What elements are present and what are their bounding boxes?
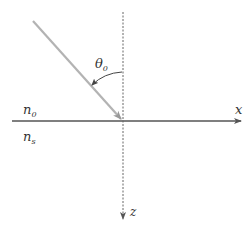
x-axis-label: x [235, 103, 242, 116]
angle-subscript: 0 [103, 64, 108, 73]
angle-label: θ0 [95, 57, 108, 73]
medium-bottom-subscript: s [31, 137, 35, 146]
medium-bottom-label: ns [23, 130, 35, 146]
angle-arc [92, 72, 122, 85]
z-axis-label: z [130, 206, 136, 218]
angle-symbol: θ [95, 56, 103, 71]
diagram-svg [0, 0, 252, 228]
medium-top-label: n0 [23, 103, 36, 119]
medium-top-subscript: 0 [31, 110, 36, 119]
diagram-canvas: θ0 n0 ns x z [0, 0, 252, 228]
